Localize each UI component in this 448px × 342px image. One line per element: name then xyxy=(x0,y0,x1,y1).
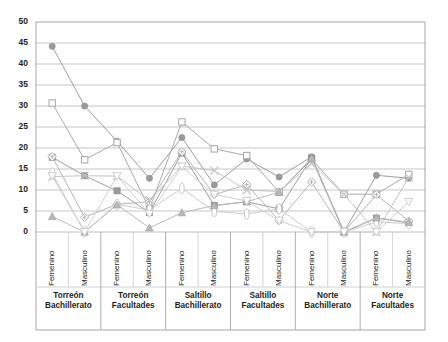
group-label-line-1: Norte xyxy=(360,291,425,301)
group-label-line-1: Norte xyxy=(295,291,360,301)
x-axis-category-label: Femenino xyxy=(242,236,251,286)
series-8 xyxy=(48,163,413,236)
y-axis-tick-label: 5 xyxy=(2,206,28,215)
series-1 xyxy=(49,43,412,235)
x-axis-category-label: Masculino xyxy=(404,236,413,286)
x-axis-group-label: TorreónBachillerato xyxy=(36,291,101,311)
group-label-line-2: Bachillerato xyxy=(166,301,231,311)
group-label-line-2: Bachillerato xyxy=(36,301,101,311)
group-label-line-1: Saltillo xyxy=(166,291,231,301)
x-axis-category-label: Masculino xyxy=(274,236,283,286)
y-axis-tick-label: 20 xyxy=(2,143,28,152)
y-axis-tick-label: 40 xyxy=(2,59,28,68)
x-axis-category-label: Femenino xyxy=(47,236,56,286)
group-label-line-2: Bachillerato xyxy=(295,301,360,311)
y-axis-tick-label: 45 xyxy=(2,38,28,47)
x-axis-category-label: Masculino xyxy=(144,236,153,286)
y-axis-tick-label: 25 xyxy=(2,122,28,131)
x-axis-category-label: Masculino xyxy=(80,236,89,286)
y-axis-tick-label: 15 xyxy=(2,164,28,173)
series-3 xyxy=(49,150,412,235)
x-axis-group-label: NorteFacultades xyxy=(360,291,425,311)
y-axis-tick-label: 50 xyxy=(2,17,28,26)
series-2 xyxy=(49,100,412,212)
x-axis-category-label: Femenino xyxy=(177,236,186,286)
x-axis-category-label: Masculino xyxy=(209,236,218,286)
x-axis-category-label: Masculino xyxy=(339,236,348,286)
gridlines xyxy=(36,22,425,232)
group-label-line-2: Facultades xyxy=(101,301,166,311)
group-label-line-2: Facultades xyxy=(360,301,425,311)
x-axis-category-label: Femenino xyxy=(307,236,316,286)
y-axis-tick-label: 35 xyxy=(2,80,28,89)
x-axis-group-label: NorteBachillerato xyxy=(295,291,360,311)
group-label-line-2: Facultades xyxy=(231,301,296,311)
series-4 xyxy=(48,148,413,237)
x-axis-category-label: Femenino xyxy=(112,236,121,286)
y-axis-tick-label: 30 xyxy=(2,101,28,110)
chart-screenshot: 05101520253035404550FemeninoMasculinoFem… xyxy=(0,0,448,342)
group-label-line-1: Torreón xyxy=(36,291,101,301)
x-axis-group-label: TorreónFacultades xyxy=(101,291,166,311)
group-label-line-1: Saltillo xyxy=(231,291,296,301)
x-axis-group-label: SaltilloFacultades xyxy=(231,291,296,311)
y-axis-tick-label: 10 xyxy=(2,185,28,194)
y-axis-tick-label: 0 xyxy=(2,227,28,236)
group-label-line-1: Torreón xyxy=(101,291,166,301)
x-axis-group-label: SaltilloBachillerato xyxy=(166,291,231,311)
x-axis-category-label: Femenino xyxy=(371,236,380,286)
